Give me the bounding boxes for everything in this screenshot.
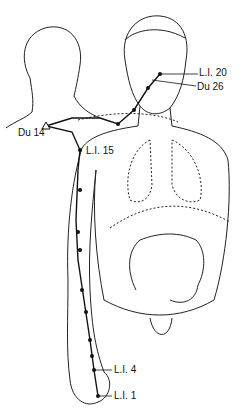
label-li15: L.I. 15 <box>86 146 114 156</box>
back-head-outline <box>6 27 100 128</box>
meridian-figure <box>0 0 241 416</box>
label-li20: L.I. 20 <box>199 68 227 78</box>
front-head-outline <box>124 16 187 114</box>
label-du14: Du 14 <box>18 128 45 138</box>
label-li1: L.I. 1 <box>114 391 136 401</box>
label-du26: Du 26 <box>197 82 224 92</box>
meridian-line <box>46 74 160 396</box>
label-li4: L.I. 4 <box>114 365 136 375</box>
colon <box>130 234 204 302</box>
acupoints <box>76 72 162 398</box>
